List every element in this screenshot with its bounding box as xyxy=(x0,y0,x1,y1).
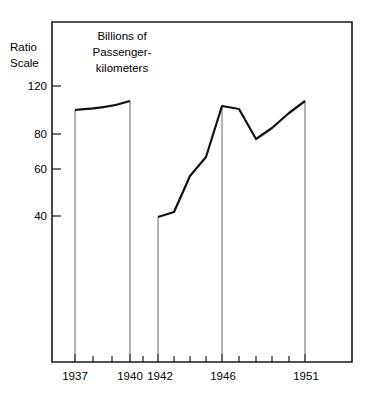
data-series-1942-1951 xyxy=(158,101,305,217)
x-tick-label-1951: 1951 xyxy=(293,370,319,382)
y-axis-tick-labels: 120 80 60 40 xyxy=(28,80,47,222)
x-tick-label-1946: 1946 xyxy=(210,370,236,382)
y-tick-label-40: 40 xyxy=(34,210,47,222)
x-tick-label-1940: 1940 xyxy=(117,370,143,382)
data-drop-lines xyxy=(75,101,305,361)
y-tick-label-80: 80 xyxy=(34,128,47,140)
chart-title-line-3: kilometers xyxy=(96,62,149,74)
y-axis-ticks xyxy=(52,86,61,216)
x-axis-minor-ticks xyxy=(93,356,289,362)
y-tick-label-60: 60 xyxy=(34,163,47,175)
data-series-1937-1940 xyxy=(75,101,130,110)
chart-title: Billions of Passenger- kilometers xyxy=(93,30,152,74)
chart-title-line-1: Billions of xyxy=(97,30,147,42)
x-tick-label-1942: 1942 xyxy=(147,370,173,382)
x-tick-label-1937: 1937 xyxy=(62,370,88,382)
ratio-scale-label: Ratio Scale xyxy=(10,41,39,69)
chart-container: 120 80 60 40 Ratio Scale Billions of Pas… xyxy=(0,0,372,404)
ratio-scale-line-2: Scale xyxy=(10,57,39,69)
chart-title-line-2: Passenger- xyxy=(93,46,152,58)
y-tick-label-120: 120 xyxy=(28,80,47,92)
chart-svg: 120 80 60 40 Ratio Scale Billions of Pas… xyxy=(0,0,372,404)
ratio-scale-line-1: Ratio xyxy=(10,41,37,53)
x-axis-tick-labels: 1937 1940 1942 1946 1951 xyxy=(62,370,319,382)
